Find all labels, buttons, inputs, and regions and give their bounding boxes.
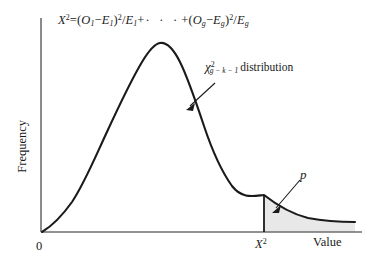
distribution-label: χ2g − k − 1distribution (205, 60, 293, 75)
formula-equals: = (70, 13, 77, 27)
distribution-word: distribution (240, 61, 293, 73)
formula-plus-1: + (137, 13, 144, 27)
critical-value-var: X (255, 237, 263, 251)
p-value-label: p (300, 168, 307, 181)
chi-square-formula: X2=(O1−E1)2/E1+· · ·+(Og−Eg)2/Eg (58, 14, 249, 28)
origin-tick-label: 0 (36, 240, 42, 253)
formula-ellipsis: · · · (145, 13, 182, 27)
critical-value-tick-label: X2 (255, 238, 267, 251)
formula-term2-e: E (213, 13, 221, 27)
formula-term2-den-sub: g (245, 19, 249, 28)
p-label-arrow-line (276, 180, 300, 208)
chi-square-distribution-figure: X2=(O1−E1)2/E1+· · ·+(Og−Eg)2/Eg χ2g − k… (0, 0, 373, 265)
critical-value-sup: 2 (263, 237, 267, 246)
y-axis-label: Frequency (16, 101, 29, 191)
formula-term1-minus: − (95, 13, 102, 27)
distribution-label-arrowhead (186, 103, 195, 111)
density-curve (42, 43, 355, 232)
formula-term2-den: E (237, 13, 245, 27)
x-axis-label: Value (313, 236, 341, 249)
formula-term2-o: O (193, 13, 202, 27)
chi-degrees-of-freedom-subscript: g − k − 1 (210, 66, 238, 75)
formula-lhs-var: X (58, 13, 66, 27)
p-value-shaded-area (264, 195, 355, 232)
plot-canvas (0, 0, 373, 265)
